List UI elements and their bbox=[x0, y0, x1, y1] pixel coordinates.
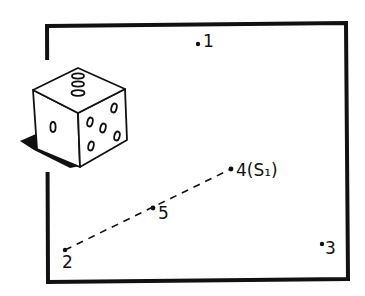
die-left-pip bbox=[50, 122, 55, 132]
point-1-label: 1 bbox=[203, 33, 214, 50]
point-5-dot bbox=[151, 206, 156, 211]
point-4-dot bbox=[229, 167, 234, 172]
die-top-pips bbox=[72, 73, 85, 95]
dashed-line bbox=[65, 169, 231, 250]
point-3-label: 3 bbox=[325, 240, 336, 257]
die bbox=[20, 60, 130, 172]
diagram-canvas bbox=[0, 0, 365, 296]
point-3-dot bbox=[320, 242, 324, 246]
point-4-label: 4(S₁) bbox=[236, 162, 278, 179]
diagram: 1 2 3 4(S₁) 5 bbox=[0, 0, 365, 296]
point-2-label: 2 bbox=[62, 254, 73, 271]
point-5-label: 5 bbox=[158, 205, 169, 222]
point-1-dot bbox=[196, 42, 200, 46]
